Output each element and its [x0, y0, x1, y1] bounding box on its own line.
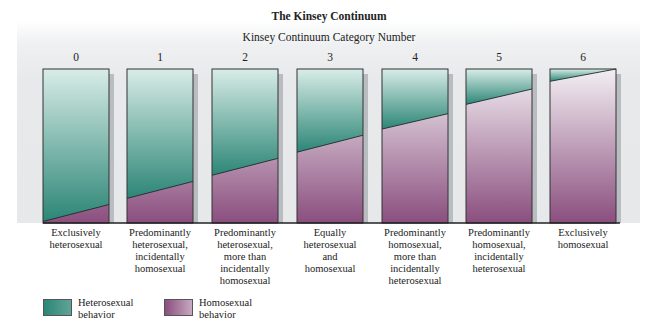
bar-category-5 [466, 69, 537, 223]
legend-label-homosexual: Homosexual behavior [199, 297, 252, 321]
bar-category-2 [212, 69, 283, 223]
heterosexual-region [127, 69, 193, 198]
heterosexual-region [212, 69, 278, 175]
category-label-1: Predominantlyheterosexual,incidentallyho… [115, 227, 205, 275]
bar-category-0 [43, 69, 114, 223]
legend-label-heterosexual: Heterosexual behavior [78, 297, 133, 321]
category-label-2: Predominantlyheterosexual,more thanincid… [200, 227, 290, 287]
heterosexual-region [43, 69, 109, 221]
bar-category-3 [297, 69, 368, 223]
legend-swatch-heterosexual [43, 299, 72, 316]
category-label-3: Equallyheterosexualandhomosexual [285, 227, 375, 275]
category-label-5: Predominantlyhomosexual,incidentallyhete… [454, 227, 544, 275]
bar-category-1 [127, 69, 198, 223]
bar-category-6 [550, 69, 621, 223]
category-label-0: Exclusivelyheterosexual [31, 227, 121, 251]
bar-category-4 [382, 69, 453, 223]
kinsey-bars [0, 0, 658, 336]
legend-swatch-homosexual [164, 299, 193, 316]
category-label-6: Exclusivelyhomosexual [538, 227, 628, 251]
category-label-4: Predominantlyhomosexual,more thaninciden… [370, 227, 460, 287]
